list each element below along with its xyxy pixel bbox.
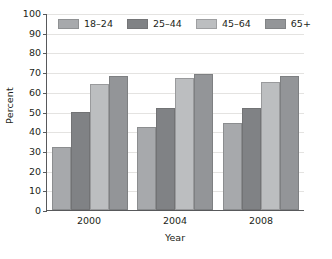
- legend-label: 25–44: [153, 19, 182, 29]
- x-axis-tick-label: 2000: [77, 215, 101, 226]
- y-axis-tick-label: 40: [29, 127, 41, 137]
- bar[interactable]: [71, 112, 90, 211]
- bar[interactable]: [52, 147, 71, 210]
- x-axis-title: Year: [46, 232, 304, 243]
- legend-label: 65+: [291, 19, 311, 29]
- bar[interactable]: [242, 108, 261, 210]
- legend: 18–2425–4445–6465+: [58, 19, 311, 29]
- x-axis-tick-label: 2008: [249, 215, 273, 226]
- legend-item[interactable]: 25–44: [127, 19, 182, 29]
- legend-label: 45–64: [222, 19, 251, 29]
- y-axis-tick-labels: 1009080706050403020100: [18, 0, 44, 211]
- legend-swatch: [127, 19, 148, 29]
- legend-swatch: [58, 19, 79, 29]
- x-axis-tick-label: 2004: [163, 215, 187, 226]
- y-axis-tick-label: 20: [29, 167, 41, 177]
- bar[interactable]: [156, 108, 175, 210]
- bar[interactable]: [109, 76, 128, 210]
- y-axis-tick-label: 0: [35, 206, 41, 216]
- y-axis-tick-label: 60: [29, 88, 41, 98]
- bar[interactable]: [261, 82, 280, 210]
- y-axis-tick-mark: [43, 211, 47, 212]
- legend-item[interactable]: 45–64: [196, 19, 251, 29]
- bar[interactable]: [194, 74, 213, 210]
- y-axis-title-text: Percent: [4, 87, 15, 124]
- legend-label: 18–24: [84, 19, 113, 29]
- legend-swatch: [196, 19, 217, 29]
- y-axis-tick-label: 100: [23, 9, 41, 19]
- y-axis-tick-label: 10: [29, 186, 41, 196]
- bar[interactable]: [223, 123, 242, 210]
- bar-group: [52, 14, 128, 210]
- bar[interactable]: [175, 78, 194, 210]
- y-axis-tick-label: 80: [29, 48, 41, 58]
- y-axis-tick-label: 50: [29, 108, 41, 118]
- y-axis-title: Percent: [0, 0, 18, 211]
- legend-swatch: [265, 19, 286, 29]
- legend-item[interactable]: 65+: [265, 19, 311, 29]
- legend-item[interactable]: 18–24: [58, 19, 113, 29]
- bar-groups: [47, 14, 304, 210]
- x-axis-tick-labels: 200020042008: [46, 215, 304, 229]
- bar[interactable]: [90, 84, 109, 210]
- y-axis-tick-label: 70: [29, 68, 41, 78]
- y-axis-tick-label: 90: [29, 29, 41, 39]
- bar-group: [137, 14, 213, 210]
- y-axis-tick-label: 30: [29, 147, 41, 157]
- bar[interactable]: [137, 127, 156, 210]
- bar-chart-figure: Percent 1009080706050403020100 18–2425–4…: [0, 0, 332, 259]
- plot-area: [46, 14, 304, 211]
- bar-group: [223, 14, 299, 210]
- bar[interactable]: [280, 76, 299, 210]
